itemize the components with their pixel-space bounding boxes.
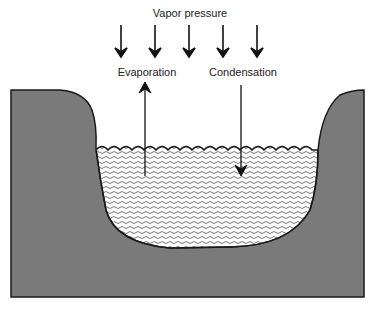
condensation-label: Condensation xyxy=(209,66,277,78)
diagram-title: Vapor pressure xyxy=(153,7,227,19)
evaporation-label: Evaporation xyxy=(118,66,177,78)
down-arrow-icon xyxy=(183,25,195,57)
down-arrow-icon xyxy=(115,25,127,57)
down-arrow-icon xyxy=(149,25,161,57)
down-arrow-icon xyxy=(217,25,229,57)
down-arrow-icon xyxy=(251,25,263,57)
diagram-canvas xyxy=(0,0,373,310)
vapor-pressure-arrows xyxy=(115,25,263,57)
water-body xyxy=(96,147,318,249)
